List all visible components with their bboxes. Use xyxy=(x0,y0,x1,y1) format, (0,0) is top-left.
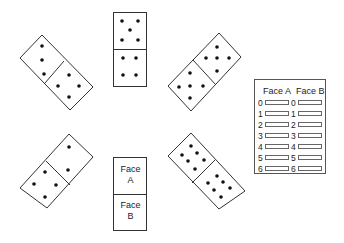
row-number-a: 5 xyxy=(258,153,263,163)
row-number-b: 5 xyxy=(291,153,296,163)
table-row: 0 0 xyxy=(255,98,325,109)
table-row: 5 5 xyxy=(255,153,325,164)
tally-box-b[interactable] xyxy=(298,144,322,149)
row-number-b: 6 xyxy=(291,164,296,174)
domino-bottom-left xyxy=(20,134,93,208)
tally-box-b[interactable] xyxy=(298,133,322,138)
domino-bottom-right xyxy=(168,133,245,209)
tally-box-a[interactable] xyxy=(265,122,289,127)
face-b-label-line1: Face xyxy=(114,200,147,211)
row-number-b: 2 xyxy=(291,120,296,130)
tally-box-b[interactable] xyxy=(298,100,322,105)
tally-box-a[interactable] xyxy=(265,100,289,105)
header-face-b: Face B xyxy=(296,86,325,96)
tally-box-a[interactable] xyxy=(265,111,289,116)
header-face-a: Face A xyxy=(263,86,291,96)
domino-top-left xyxy=(20,35,93,110)
tally-box-b[interactable] xyxy=(298,166,322,171)
table-row: 2 2 xyxy=(255,120,325,131)
domino-top-right xyxy=(168,33,241,111)
face-b-label-line2: B xyxy=(114,211,147,222)
row-number-a: 3 xyxy=(258,131,263,141)
tally-box-a[interactable] xyxy=(265,155,289,160)
row-number-a: 1 xyxy=(258,109,263,119)
table-row: 6 6 xyxy=(255,164,325,175)
row-number-b: 1 xyxy=(291,109,296,119)
tally-box-b[interactable] xyxy=(298,155,322,160)
tally-box-a[interactable] xyxy=(265,144,289,149)
row-number-b: 4 xyxy=(291,142,296,152)
row-number-a: 0 xyxy=(258,98,263,108)
face-a-label: Face A xyxy=(114,164,147,186)
tally-table: Face A Face B 0 0 1 1 2 2 3 3 4 4 5 5 6 xyxy=(254,79,326,174)
tally-box-a[interactable] xyxy=(265,166,289,171)
table-row: 3 3 xyxy=(255,131,325,142)
table-row: 1 1 xyxy=(255,109,325,120)
table-row: 4 4 xyxy=(255,142,325,153)
tally-box-a[interactable] xyxy=(265,133,289,138)
row-number-a: 6 xyxy=(258,164,263,174)
domino-top-center xyxy=(114,13,147,87)
face-b-label: Face B xyxy=(114,200,147,222)
face-a-label-line1: Face xyxy=(114,164,147,175)
row-number-a: 4 xyxy=(258,142,263,152)
row-number-a: 2 xyxy=(258,120,263,130)
face-a-label-line2: A xyxy=(114,175,147,186)
row-number-b: 3 xyxy=(291,131,296,141)
tally-box-b[interactable] xyxy=(298,122,322,127)
row-number-b: 0 xyxy=(291,98,296,108)
tally-box-b[interactable] xyxy=(298,111,322,116)
